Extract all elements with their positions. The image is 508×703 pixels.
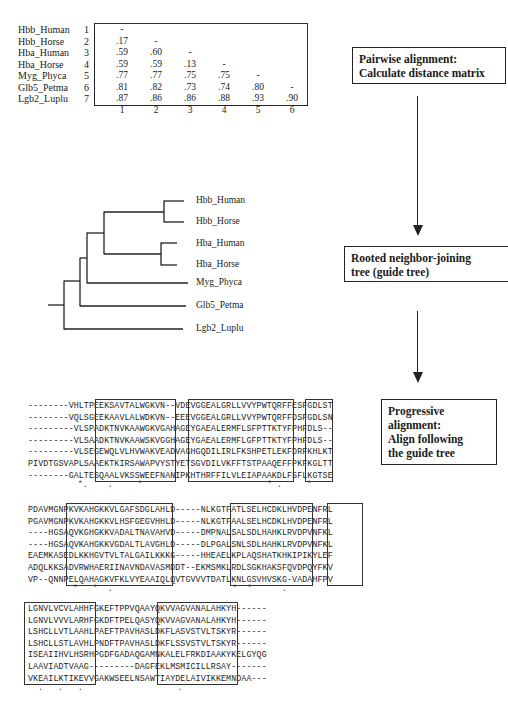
helix-box <box>24 602 96 685</box>
arrow-down-icon <box>413 225 423 236</box>
guide-tree <box>0 0 300 360</box>
tree-leaf: Hba_Horse <box>196 259 239 269</box>
tree-leaf: Lgb2_Luplu <box>196 323 244 333</box>
helix-box <box>157 602 238 685</box>
step-subtitle: Calculate distance matrix <box>359 66 499 80</box>
tree-leaf: Myg_Phyca <box>196 277 242 287</box>
helix-box <box>188 399 294 482</box>
tree-leaf: Glb5_Petma <box>196 300 244 310</box>
helix-box <box>230 503 313 586</box>
step-guide-tree: Rooted neighbor-joining tree (guide tree… <box>344 246 508 282</box>
step-title: Rooted neighbor-joining <box>351 251 502 265</box>
step-title: alignment: <box>388 418 490 432</box>
helix-box <box>66 503 173 586</box>
tree-leaf: Hbb_Human <box>196 195 245 205</box>
helix-box <box>95 399 176 482</box>
conservation-marks: * * . * * . <box>28 585 333 593</box>
step-subtitle: Align following <box>388 432 490 446</box>
step-progressive-alignment: Progressive alignment: Align following t… <box>381 399 497 465</box>
step-title: Progressive <box>388 404 490 418</box>
step-subtitle: the guide tree <box>388 446 490 460</box>
step-pairwise-alignment: Pairwise alignment: Calculate distance m… <box>352 47 506 84</box>
conservation-marks: *. . * * . * <box>28 481 333 489</box>
flow-arrow-line <box>417 96 418 226</box>
conservation-marks: . . . . <box>28 684 267 692</box>
flow-arrow-line <box>417 311 418 373</box>
step-title: Pairwise alignment: <box>359 52 499 66</box>
step-subtitle: tree (guide tree) <box>351 265 502 279</box>
helix-box <box>327 503 363 586</box>
arrow-down-icon <box>413 372 423 383</box>
tree-leaf: Hbb_Horse <box>196 216 240 226</box>
helix-box <box>305 399 333 482</box>
tree-leaf: Hba_Human <box>196 238 245 248</box>
